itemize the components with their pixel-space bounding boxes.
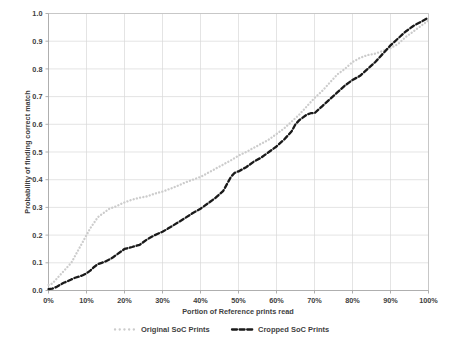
y-tick-label: 0.6	[32, 120, 42, 129]
x-tick-label: 30%	[155, 296, 170, 305]
y-tick-label: 0.0	[32, 286, 42, 295]
y-tick-label: 0.2	[32, 231, 42, 240]
y-tick-label: 0.3	[32, 203, 42, 212]
x-tick-label: 20%	[117, 296, 132, 305]
y-tick-label: 0.9	[32, 37, 42, 46]
legend-label-original-soc-prints: Original SoC Prints	[141, 325, 210, 334]
chart-container: 0%10%20%30%40%50%60%70%80%90%100% 0.00.1…	[0, 0, 450, 345]
x-tick-label: 10%	[79, 296, 94, 305]
x-tick-label: 70%	[307, 296, 322, 305]
y-tick-label: 1.0	[32, 9, 42, 18]
x-tick-label: 0%	[43, 296, 54, 305]
y-tick-label: 0.4	[32, 175, 43, 184]
y-axis-title: Probability of finding correct match	[23, 90, 32, 213]
x-tick-label: 60%	[269, 296, 284, 305]
y-tick-label: 0.5	[32, 148, 42, 157]
x-tick-label: 50%	[231, 296, 246, 305]
x-tick-label: 40%	[193, 296, 208, 305]
x-tick-label: 80%	[345, 296, 360, 305]
chart-background	[0, 0, 450, 345]
legend-label-cropped-soc-prints: Cropped SoC Prints	[258, 325, 329, 334]
x-tick-label: 100%	[419, 296, 438, 305]
y-tick-label: 0.7	[32, 92, 42, 101]
x-axis-title: Portion of Reference prints read	[182, 307, 294, 316]
y-tick-label: 0.8	[32, 65, 42, 74]
y-tick-label: 0.1	[32, 258, 42, 267]
probability-line-chart: 0%10%20%30%40%50%60%70%80%90%100% 0.00.1…	[0, 0, 450, 345]
x-tick-label: 90%	[383, 296, 398, 305]
